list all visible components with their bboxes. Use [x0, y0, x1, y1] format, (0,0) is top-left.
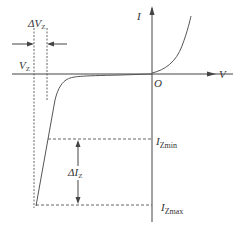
arrowhead-up-icon: [76, 140, 81, 147]
forward-curve: [152, 16, 191, 73]
iz-max-label: IZmax: [161, 202, 183, 216]
origin-label: O: [154, 78, 162, 89]
arrowhead-down-icon: [76, 197, 81, 204]
delta-vz-sub: Z: [41, 23, 45, 31]
x-axis-label: V: [219, 69, 226, 80]
delta-vz-label: ΔVZ: [28, 18, 45, 31]
delta-iz-sub: Z: [78, 172, 82, 180]
y-axis-arrow-icon: [150, 6, 155, 15]
zener-iv-diagram: [0, 0, 233, 228]
iz-min-sub: Zmin: [160, 141, 177, 150]
y-axis-label: I: [137, 11, 141, 22]
vz-main: V: [19, 59, 26, 71]
iz-max-sub: Zmax: [165, 207, 184, 216]
delta-iz-label: ΔIZ: [68, 167, 82, 180]
iz-min-label: IZmin: [156, 136, 177, 150]
arrowhead-right-icon: [27, 42, 34, 47]
reverse-curve: [36, 74, 152, 206]
arrowhead-left-icon: [47, 42, 54, 47]
x-axis-arrow-icon: [207, 72, 216, 77]
vz-sub: Z: [26, 65, 30, 73]
vz-label: VZ: [19, 60, 30, 73]
